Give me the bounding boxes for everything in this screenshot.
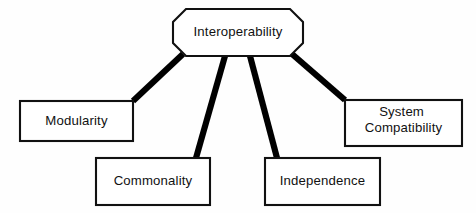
node-system-compatibility[interactable]: System Compatibility <box>345 100 462 146</box>
node-label-modularity: Modularity <box>45 113 108 128</box>
node-interoperability[interactable]: Interoperability <box>173 9 303 56</box>
node-label-system-compatibility-line1: System <box>379 104 424 119</box>
node-label-interoperability: Interoperability <box>194 24 283 39</box>
node-label-system-compatibility-line2: Compatibility <box>365 120 443 135</box>
node-label-independence: Independence <box>280 173 365 188</box>
node-modularity[interactable]: Modularity <box>20 101 133 141</box>
connector-interoperability-system-compatibility <box>292 54 345 100</box>
node-commonality[interactable]: Commonality <box>96 158 210 205</box>
node-label-commonality: Commonality <box>114 173 193 188</box>
connector-interoperability-commonality <box>196 56 225 158</box>
diagram-canvas: Interoperability Modularity Commonality … <box>0 0 476 213</box>
node-independence[interactable]: Independence <box>265 158 380 205</box>
connector-group <box>133 54 345 158</box>
diagram-container: Interoperability Modularity Commonality … <box>0 0 476 213</box>
connector-interoperability-modularity <box>133 54 183 101</box>
connector-interoperability-independence <box>250 56 277 158</box>
